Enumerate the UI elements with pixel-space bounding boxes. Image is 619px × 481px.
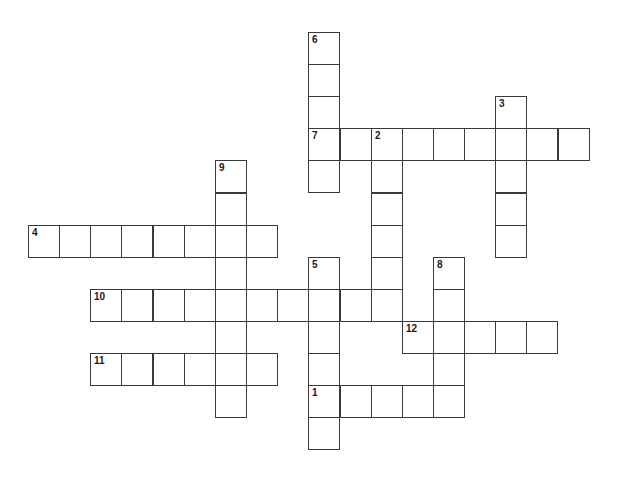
crossword-cell[interactable]: [340, 128, 372, 161]
crossword-cell[interactable]: [308, 160, 340, 193]
crossword-cell[interactable]: [402, 128, 434, 161]
crossword-cell[interactable]: 3: [495, 96, 527, 129]
crossword-cell[interactable]: [277, 289, 309, 322]
crossword-cell[interactable]: [340, 385, 372, 418]
crossword-cell[interactable]: [215, 321, 247, 354]
crossword-cell[interactable]: [464, 128, 496, 161]
crossword-cell[interactable]: [495, 128, 527, 161]
crossword-cell[interactable]: [153, 225, 185, 258]
crossword-cell[interactable]: [308, 321, 340, 354]
crossword-cell[interactable]: [526, 321, 558, 354]
crossword-cell[interactable]: [371, 257, 403, 290]
crossword-cell[interactable]: [246, 225, 278, 258]
crossword-cell[interactable]: [433, 353, 465, 386]
crossword-cell[interactable]: [558, 128, 590, 161]
crossword-cell[interactable]: [153, 289, 185, 322]
crossword-cell[interactable]: [526, 128, 558, 161]
crossword-cell[interactable]: [433, 128, 465, 161]
crossword-cell[interactable]: [371, 193, 403, 226]
clue-number: 2: [375, 130, 381, 141]
crossword-cell[interactable]: [433, 385, 465, 418]
clue-number: 8: [437, 259, 443, 270]
crossword-cell[interactable]: [495, 193, 527, 226]
crossword-cell[interactable]: [433, 321, 465, 354]
crossword-cell[interactable]: [121, 289, 153, 322]
crossword-cell[interactable]: [184, 353, 216, 386]
crossword-cell[interactable]: [215, 225, 247, 258]
crossword-cell[interactable]: [90, 225, 122, 258]
crossword-cell[interactable]: 9: [215, 160, 247, 193]
crossword-cell[interactable]: [371, 289, 403, 322]
crossword-cell[interactable]: [433, 289, 465, 322]
crossword-cell[interactable]: [184, 225, 216, 258]
crossword-cell[interactable]: [495, 225, 527, 258]
crossword-cell[interactable]: [121, 353, 153, 386]
crossword-cell[interactable]: 7: [308, 128, 340, 161]
crossword-cell[interactable]: 4: [28, 225, 60, 258]
crossword-cell[interactable]: [246, 353, 278, 386]
crossword-cell[interactable]: [308, 289, 340, 322]
crossword-cell[interactable]: 11: [90, 353, 122, 386]
clue-number: 12: [406, 323, 417, 334]
crossword-cell[interactable]: [308, 417, 340, 450]
clue-number: 6: [312, 34, 318, 45]
crossword-cell[interactable]: [246, 289, 278, 322]
clue-number: 1: [312, 387, 318, 398]
crossword-cell[interactable]: 2: [371, 128, 403, 161]
crossword-grid: 123456789101112: [0, 0, 619, 481]
crossword-cell[interactable]: [308, 64, 340, 97]
crossword-cell[interactable]: [402, 385, 434, 418]
crossword-cell[interactable]: [215, 353, 247, 386]
crossword-cell[interactable]: [371, 160, 403, 193]
clue-number: 3: [499, 98, 505, 109]
crossword-cell[interactable]: 6: [308, 32, 340, 65]
crossword-cell[interactable]: [184, 289, 216, 322]
crossword-cell[interactable]: [153, 353, 185, 386]
crossword-cell[interactable]: [59, 225, 91, 258]
crossword-cell[interactable]: [215, 193, 247, 226]
clue-number: 5: [312, 259, 318, 270]
crossword-cell[interactable]: [215, 289, 247, 322]
crossword-cell[interactable]: [371, 225, 403, 258]
crossword-cell[interactable]: [495, 160, 527, 193]
crossword-cell[interactable]: [121, 225, 153, 258]
crossword-cell[interactable]: [215, 385, 247, 418]
crossword-cell[interactable]: [340, 289, 372, 322]
crossword-cell[interactable]: [215, 257, 247, 290]
crossword-cell[interactable]: [464, 321, 496, 354]
clue-number: 9: [219, 162, 225, 173]
crossword-cell[interactable]: [308, 96, 340, 129]
crossword-cell[interactable]: 10: [90, 289, 122, 322]
crossword-cell[interactable]: 5: [308, 257, 340, 290]
clue-number: 11: [94, 355, 105, 366]
crossword-cell[interactable]: [371, 385, 403, 418]
clue-number: 7: [312, 130, 318, 141]
crossword-cell[interactable]: 8: [433, 257, 465, 290]
crossword-cell[interactable]: 1: [308, 385, 340, 418]
crossword-cell[interactable]: 12: [402, 321, 434, 354]
clue-number: 10: [94, 291, 105, 302]
crossword-cell[interactable]: [495, 321, 527, 354]
clue-number: 4: [32, 227, 38, 238]
crossword-cell[interactable]: [308, 353, 340, 386]
